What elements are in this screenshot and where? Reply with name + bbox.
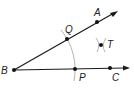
label-b: B — [1, 65, 8, 76]
label-a: A — [93, 7, 101, 18]
point-q — [65, 37, 69, 41]
angle-bisector-diagram: B Q A T P C — [0, 0, 134, 88]
point-a — [95, 20, 99, 24]
ray-ba — [14, 13, 114, 70]
point-c — [108, 66, 112, 70]
ray-bc-arrow-icon — [123, 66, 130, 71]
point-t — [99, 43, 103, 47]
arc-mark-t-1 — [96, 38, 99, 52]
label-t: T — [107, 39, 114, 50]
label-p: P — [79, 72, 86, 83]
point-p — [73, 67, 77, 71]
arc-mark-t-2 — [103, 38, 106, 52]
ray-ba-arrow-icon — [110, 11, 118, 17]
point-b — [12, 68, 16, 72]
label-c: C — [112, 72, 120, 83]
label-q: Q — [65, 24, 73, 35]
